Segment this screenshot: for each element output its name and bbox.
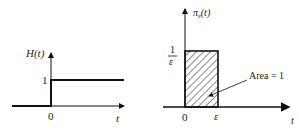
y-axis-label: H(t) xyxy=(25,47,45,60)
x-axis-label: t xyxy=(116,112,120,124)
figure: H(t) 1 0 t πε(t) 1 ε Area = 1 0 ε t xyxy=(0,0,299,130)
area-annotation: Area = 1 xyxy=(249,70,284,81)
origin-label: 0 xyxy=(48,110,54,122)
height-numerator: 1 xyxy=(170,44,175,55)
step-function-curve xyxy=(12,80,124,106)
width-label: ε xyxy=(214,110,219,122)
x-axis-label: t xyxy=(291,115,294,126)
heaviside-plot: H(t) 1 0 t xyxy=(12,47,124,124)
origin-label: 0 xyxy=(182,111,188,123)
pulse-rectangle xyxy=(185,51,218,107)
height-denominator: ε xyxy=(169,56,173,67)
y-axis-label: πε(t) xyxy=(193,7,211,20)
pulse-plot: πε(t) 1 ε Area = 1 0 ε t xyxy=(163,7,294,126)
level-label: 1 xyxy=(42,74,48,86)
